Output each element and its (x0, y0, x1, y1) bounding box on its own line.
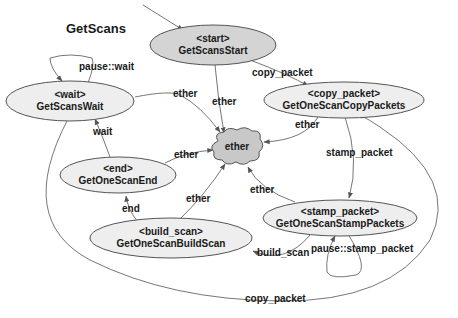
edge-label-stamp-ether: ether (250, 184, 274, 195)
edge-label-copy-stamp: stamp_packet (326, 147, 393, 158)
node-build-scan-name: GetOneScanBuildScan (117, 238, 226, 250)
node-stamp-packet-name: GetOneScanStampPackets (276, 218, 404, 230)
edge-stamp-self (327, 234, 362, 277)
edge-label-start-copy-packet: copy_packet (252, 67, 313, 78)
diagram-title: GetScans (66, 21, 126, 36)
edge-label-end-wait: wait (93, 126, 112, 137)
edge-label-wait-copy: copy_packet (245, 293, 306, 304)
edge-label-start-ether: ether (212, 96, 236, 107)
node-end-stereotype: <end> (79, 163, 158, 175)
edge-label-end-ether: ether (174, 149, 198, 160)
node-ether-label: ether (225, 141, 249, 153)
node-copy-packet-name: GetOneScanCopyPackets (283, 100, 406, 112)
edge-label-stamp-build: build_scan (257, 247, 309, 258)
edge-label-build-end: end (122, 203, 140, 214)
edge-label-wait-ether: ether (173, 88, 197, 99)
edge-entry (143, 5, 183, 30)
node-build-scan-label: <build_scan> GetOneScanBuildScan (117, 226, 226, 250)
edge-end-wait (95, 119, 110, 157)
node-copy-packet-label: <copy_packet> GetOneScanCopyPackets (283, 88, 406, 112)
edge-label-stamp-self: pause::stamp_packet (311, 243, 413, 254)
node-end-label: <end> GetOneScanEnd (79, 163, 158, 187)
edge-label-wait-self: pause::wait (79, 61, 134, 72)
node-start-stereotype: <start> (179, 33, 248, 45)
node-build-scan-stereotype: <build_scan> (117, 226, 226, 238)
edge-label-build-ether: ether (186, 193, 210, 204)
node-stamp-packet-label: <stamp_packet> GetOneScanStampPackets (276, 206, 404, 230)
node-stamp-packet-stereotype: <stamp_packet> (276, 206, 404, 218)
node-start-name: GetScansStart (179, 45, 248, 57)
node-copy-packet-stereotype: <copy_packet> (283, 88, 406, 100)
node-start-label: <start> GetScansStart (179, 33, 248, 57)
node-wait-label: <wait> GetScansWait (37, 89, 104, 113)
node-end-name: GetOneScanEnd (79, 175, 158, 187)
node-wait-name: GetScansWait (37, 101, 104, 113)
edge-label-copy-ether: ether (295, 119, 319, 130)
node-wait-stereotype: <wait> (37, 89, 104, 101)
node-ether-name: ether (225, 141, 249, 153)
